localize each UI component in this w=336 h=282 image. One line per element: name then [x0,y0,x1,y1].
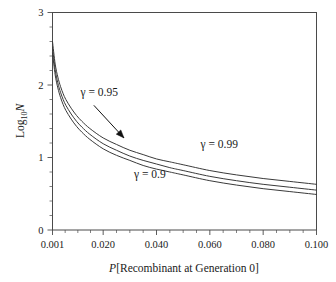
y-tick-label-2: 2 [38,80,43,91]
x-axis-title: P[Recombinant at Generation 0] [108,262,259,274]
gamma-095-callout-label: γ = 0.95 [79,86,118,99]
chart-figure: 0.0010.0200.0400.0600.0800.100 0123 γ = … [0,0,336,282]
x-axis-title-label: P[Recombinant at Generation 0] [108,262,259,274]
y-tick-label-3: 3 [38,7,43,18]
x-tick-label-5: 0.100 [305,239,329,250]
x-tick-label-0: 0.001 [41,239,65,250]
x-tick-label-1: 0.020 [91,239,115,250]
x-tick-label-4: 0.080 [251,239,275,250]
gamma-09-label-label: γ = 0.9 [133,168,166,181]
y-tick-label-0: 0 [38,225,43,236]
x-tick-label-2: 0.040 [145,239,169,250]
x-tick-label-3: 0.060 [198,239,222,250]
gamma-099-label-label: γ = 0.99 [199,138,238,151]
y-tick-label-1: 1 [38,152,43,163]
line-chart: 0.0010.0200.0400.0600.0800.100 0123 γ = … [0,0,336,282]
